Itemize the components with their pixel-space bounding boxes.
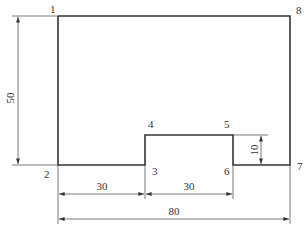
dimension-label-50: 50 — [4, 92, 16, 104]
vertex-label-6: 6 — [224, 165, 230, 177]
dimension-label-30-left: 30 — [97, 180, 109, 192]
vertex-label-5: 5 — [224, 118, 230, 130]
vertex-label-4: 4 — [148, 118, 154, 130]
shape-outline — [58, 16, 290, 165]
dimension-label-10: 10 — [248, 144, 260, 156]
dimension-label-30-right: 30 — [184, 180, 196, 192]
vertex-label-8: 8 — [296, 4, 302, 16]
vertex-label-2: 2 — [44, 168, 50, 180]
diagram-canvas: 1 2 3 4 5 6 7 8 50 30 30 80 10 — [0, 0, 305, 234]
vertex-label-1: 1 — [50, 3, 56, 15]
vertex-label-7: 7 — [297, 160, 303, 172]
dimension-label-80: 80 — [169, 205, 181, 217]
vertex-label-3: 3 — [152, 165, 158, 177]
